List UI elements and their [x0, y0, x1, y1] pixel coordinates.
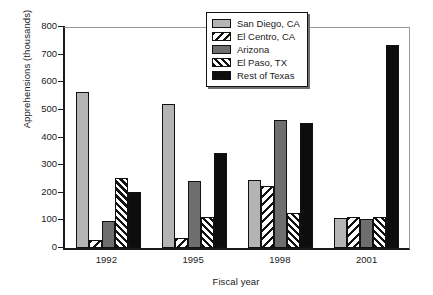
- bar: [274, 120, 287, 248]
- legend-item[interactable]: San Diego, CA: [212, 17, 300, 30]
- legend-label: Rest of Texas: [237, 70, 294, 81]
- bar-group-inner: [334, 28, 399, 248]
- bar: [261, 186, 274, 248]
- bar: [287, 213, 300, 248]
- legend-item[interactable]: Rest of Texas: [212, 69, 300, 82]
- y-tick-mark: [58, 192, 65, 193]
- bar: [334, 218, 347, 248]
- y-tick-mark: [58, 109, 65, 110]
- legend-label: San Diego, CA: [237, 18, 300, 29]
- bar: [214, 153, 227, 248]
- y-tick-mark: [58, 81, 65, 82]
- bar-group: [323, 28, 409, 248]
- bar: [347, 217, 360, 248]
- y-tick-mark: [58, 54, 65, 55]
- y-tick-mark: [58, 247, 65, 248]
- bar: [175, 238, 188, 248]
- legend: San Diego, CAEl Centro, CAArizonaEl Paso…: [206, 12, 308, 87]
- bar: [102, 221, 115, 248]
- x-axis-title: Fiscal year: [60, 276, 412, 287]
- y-tick-label: 400: [29, 131, 57, 142]
- x-tick-label: 2001: [323, 254, 410, 265]
- legend-label: Arizona: [237, 44, 269, 55]
- y-tick-mark: [58, 26, 65, 27]
- legend-item[interactable]: Arizona: [212, 43, 300, 56]
- y-tick-label: 700: [29, 48, 57, 59]
- legend-swatch: [212, 58, 231, 67]
- bar-group: [65, 28, 151, 248]
- y-tick-label: 200: [29, 186, 57, 197]
- bar: [201, 217, 214, 248]
- bar-chart: Apprehensions (thousands) 01002003004005…: [0, 0, 433, 295]
- y-tick-mark: [58, 137, 65, 138]
- bar: [188, 181, 201, 248]
- legend-item[interactable]: El Centro, CA: [212, 30, 300, 43]
- y-tick-label: 600: [29, 75, 57, 86]
- y-tick-label: 800: [29, 20, 57, 31]
- legend-swatch: [212, 71, 231, 80]
- y-tick-label: 300: [29, 158, 57, 169]
- bar: [89, 240, 102, 248]
- x-tick-label: 1998: [237, 254, 324, 265]
- legend-swatch: [212, 32, 231, 41]
- bar: [115, 178, 128, 248]
- x-axis-tick-labels: 1992199519982001: [63, 254, 410, 265]
- legend-swatch: [212, 45, 231, 54]
- bar: [300, 123, 313, 248]
- legend-swatch: [212, 19, 231, 28]
- bar: [373, 217, 386, 248]
- x-tick-label: 1992: [63, 254, 150, 265]
- legend-item[interactable]: El Paso, TX: [212, 56, 300, 69]
- y-tick-mark: [58, 164, 65, 165]
- legend-label: El Paso, TX: [237, 57, 287, 68]
- bar: [360, 219, 373, 248]
- y-tick-label: 0: [29, 241, 57, 252]
- y-tick-label: 100: [29, 213, 57, 224]
- x-tick-label: 1995: [150, 254, 237, 265]
- y-tick-mark: [58, 219, 65, 220]
- bar: [386, 45, 399, 248]
- legend-label: El Centro, CA: [237, 31, 295, 42]
- bar: [162, 104, 175, 248]
- y-tick-label: 500: [29, 103, 57, 114]
- bar-group-inner: [76, 28, 141, 248]
- bar: [248, 180, 261, 249]
- bar: [128, 192, 141, 248]
- bar: [76, 92, 89, 248]
